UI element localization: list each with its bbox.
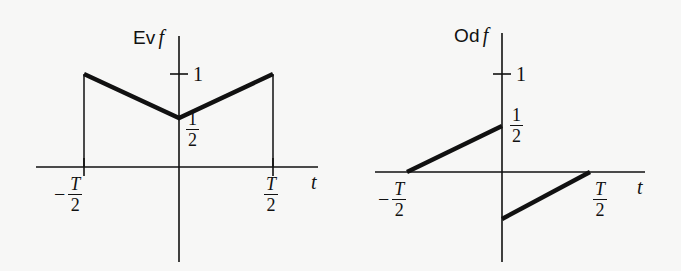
fraction-numerator: 1 bbox=[186, 110, 199, 130]
fraction-numerator: 1 bbox=[510, 106, 523, 126]
odd-axis-title: Odf bbox=[454, 25, 489, 45]
signed-fraction: − T 2 bbox=[378, 180, 406, 220]
plot-panel-even-part: Evf 1 1 2 − T 2 T 2 bbox=[0, 0, 340, 271]
even-x-tick-label-positive-half-T: T 2 bbox=[264, 175, 278, 215]
fraction-T-over-2: T 2 bbox=[264, 175, 278, 215]
fraction-denominator: 2 bbox=[68, 195, 82, 214]
plot-panel-odd-part: Odf 1 1 2 − T 2 T 2 bbox=[340, 0, 681, 271]
even-x-axis-title: t bbox=[311, 172, 317, 192]
fraction-denominator: 2 bbox=[264, 195, 278, 214]
even-axis-title-prefix: Ev bbox=[133, 27, 156, 48]
even-part-plot-graphics bbox=[0, 0, 340, 271]
odd-y-tick-label-one: 1 bbox=[516, 64, 526, 84]
fraction-one-half: 1 2 bbox=[186, 110, 199, 150]
odd-x-axis-title: t bbox=[637, 177, 643, 197]
fraction-T-over-2: T 2 bbox=[593, 180, 607, 220]
odd-y-tick-label-one-half: 1 2 bbox=[510, 106, 523, 146]
even-y-tick-label-one: 1 bbox=[193, 64, 203, 84]
even-y-tick-label-one-half: 1 2 bbox=[186, 110, 199, 150]
fraction-one-half: 1 2 bbox=[510, 106, 523, 146]
fraction-denominator: 2 bbox=[392, 200, 406, 219]
odd-part-curve-left bbox=[407, 126, 502, 172]
fraction-numerator: T bbox=[264, 175, 278, 195]
signed-fraction: − T 2 bbox=[54, 175, 82, 215]
odd-axis-title-function: f bbox=[480, 24, 489, 46]
odd-axis-title-prefix: Od bbox=[454, 25, 480, 46]
fraction-denominator: 2 bbox=[510, 126, 523, 145]
figure-root: Evf 1 1 2 − T 2 T 2 bbox=[0, 0, 681, 271]
odd-part-curve-right bbox=[502, 172, 590, 219]
fraction-T-over-2: T 2 bbox=[392, 180, 406, 220]
fraction-T-over-2: T 2 bbox=[68, 175, 82, 215]
odd-x-tick-label-positive-half-T: T 2 bbox=[593, 180, 607, 220]
fraction-numerator: T bbox=[593, 180, 607, 200]
even-x-tick-label-negative-half-T: − T 2 bbox=[54, 175, 82, 215]
minus-sign: − bbox=[54, 184, 68, 204]
fraction-numerator: T bbox=[68, 175, 82, 195]
fraction-denominator: 2 bbox=[186, 130, 199, 149]
even-axis-title: Evf bbox=[133, 27, 164, 47]
even-axis-title-function: f bbox=[156, 26, 165, 48]
fraction-numerator: T bbox=[392, 180, 406, 200]
odd-x-tick-label-negative-half-T: − T 2 bbox=[378, 180, 406, 220]
minus-sign: − bbox=[378, 189, 392, 209]
fraction-denominator: 2 bbox=[593, 200, 607, 219]
